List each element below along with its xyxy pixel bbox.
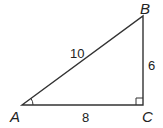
- vertex-b-label: B: [140, 0, 150, 17]
- triangle-svg: A B C 10 6 8: [0, 0, 163, 128]
- right-angle-marker: [136, 98, 143, 105]
- side-bc-length: 6: [148, 58, 155, 73]
- vertex-c-label: C: [142, 108, 153, 125]
- side-ab-length: 10: [70, 46, 84, 61]
- side-ac-length: 8: [82, 110, 89, 125]
- vertex-a-label: A: [9, 108, 20, 125]
- angle-a-arc: [31, 99, 33, 106]
- triangle-diagram: A B C 10 6 8: [0, 0, 163, 128]
